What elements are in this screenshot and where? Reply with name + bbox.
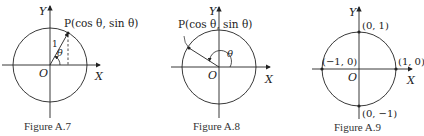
point-bottom [357,104,360,107]
y-axis-label: Y [39,5,48,18]
point-label-left: (−1, 0) [322,56,357,67]
angle-label: θ [57,47,63,58]
figure-a9: Y X O (0, 1) (−1, 0) (1, 0) (0, −1) Figu… [312,6,424,133]
figures-canvas: Y X O P(cos θ, sin θ) 1 θ Figure A.7 Y X… [0,0,424,136]
x-axis-label: X [264,73,274,86]
radius-line [189,48,219,67]
x-axis-label: X [406,74,416,87]
point-right [394,67,397,70]
point-label: P(cos θ, sin θ) [178,18,252,30]
origin-label: O [39,67,48,80]
point-label: P(cos θ, sin θ) [64,17,138,29]
point-label-right: (1, 0) [398,56,424,67]
point-label-top: (0, 1) [362,20,389,31]
point-p [187,46,190,49]
point-top [357,30,360,33]
figure-caption: Figure A.8 [193,120,241,132]
point-label-bottom: (0, −1) [362,108,397,119]
figure-caption: Figure A.7 [24,120,72,132]
y-axis-label: Y [349,6,358,19]
y-axis-label: Y [209,5,218,18]
point-left [320,67,323,70]
point-p [67,32,70,35]
figure-a7: Y X O P(cos θ, sin θ) 1 θ Figure A.7 [2,5,138,132]
angle-label: θ [227,48,233,59]
x-axis-label: X [94,70,104,83]
origin-label: O [348,71,357,84]
figure-a8: Y X O P(cos θ, sin θ) θ Figure A.8 [171,5,274,132]
figure-caption: Figure A.9 [334,121,382,133]
origin-label: O [208,69,217,82]
